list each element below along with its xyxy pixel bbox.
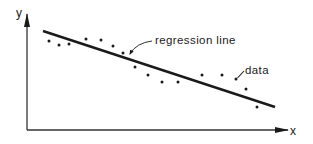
data-point bbox=[112, 45, 115, 48]
data-point bbox=[221, 74, 224, 77]
data-points bbox=[48, 38, 259, 109]
data-point bbox=[245, 88, 248, 91]
data-label: data bbox=[245, 64, 269, 76]
data-point bbox=[134, 66, 137, 69]
data-point bbox=[177, 81, 180, 84]
data-point bbox=[85, 38, 88, 41]
data-point bbox=[235, 78, 238, 81]
data-point bbox=[122, 52, 125, 55]
data-point bbox=[100, 39, 103, 42]
data-annotation: data bbox=[238, 64, 270, 78]
regression-diagram: y x regression line bbox=[0, 0, 313, 144]
data-point bbox=[256, 106, 259, 109]
data-point bbox=[147, 74, 150, 77]
data-point bbox=[58, 44, 61, 47]
regression-line-label: regression line bbox=[155, 34, 236, 46]
data-point bbox=[68, 43, 71, 46]
regression-line-annotation: regression line bbox=[130, 34, 236, 54]
data-leader-line bbox=[238, 71, 245, 78]
regression-leader-line bbox=[130, 41, 152, 54]
diagram-canvas: y x regression line bbox=[0, 0, 313, 144]
x-axis-label: x bbox=[290, 124, 296, 138]
y-axis-label: y bbox=[16, 6, 22, 20]
data-point bbox=[48, 40, 51, 43]
data-point bbox=[201, 74, 204, 77]
data-point bbox=[161, 81, 164, 84]
